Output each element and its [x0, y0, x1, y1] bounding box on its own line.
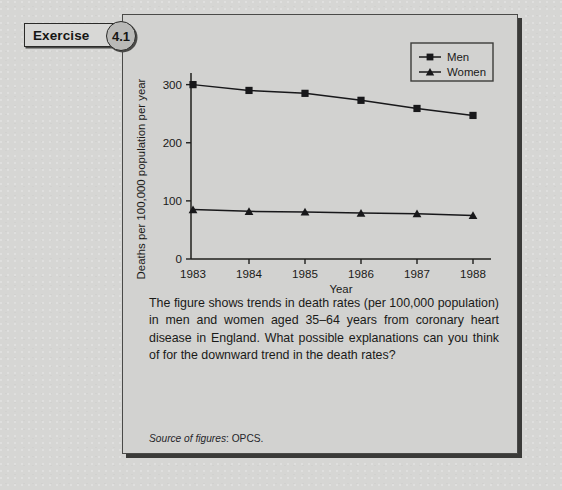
legend-label-men: Men: [447, 51, 469, 63]
series-line: [193, 85, 473, 116]
y-tick-label: 200: [163, 136, 182, 149]
series-women: [189, 205, 478, 219]
data-point: [427, 54, 434, 61]
data-point: [413, 105, 420, 112]
source-value: OPCS.: [232, 433, 264, 444]
data-point: [301, 90, 308, 97]
x-tick-label: 1988: [460, 267, 486, 280]
series-men: [189, 81, 476, 119]
source-line: Source of figures: OPCS.: [149, 433, 263, 444]
chart-container: Deaths per 100,000 population per year 0…: [123, 21, 519, 299]
chart-legend: MenWomen: [411, 43, 493, 81]
death-rates-line-chart: Deaths per 100,000 population per year 0…: [123, 21, 519, 299]
data-point: [245, 87, 252, 94]
series-line: [193, 210, 473, 216]
x-axis-ticks: 198319841985198619871988: [180, 259, 486, 280]
x-tick-label: 1986: [348, 267, 374, 280]
source-label: Source of figures: [149, 433, 226, 444]
y-axis-ticks: 0100200300: [163, 78, 191, 265]
exercise-panel: Deaths per 100,000 population per year 0…: [122, 14, 518, 454]
x-tick-label: 1983: [180, 267, 206, 280]
x-tick-label: 1984: [236, 267, 262, 280]
exercise-caption: The figure shows trends in death rates (…: [149, 295, 499, 365]
legend-label-women: Women: [447, 66, 486, 78]
y-axis-title: Deaths per 100,000 population per year: [135, 78, 147, 279]
y-tick-label: 300: [163, 78, 182, 91]
exercise-badge: Exercise 4.1: [24, 22, 120, 48]
data-point: [469, 112, 476, 119]
x-tick-label: 1985: [292, 267, 318, 280]
exercise-number-circle: 4.1: [106, 21, 136, 51]
data-point: [357, 97, 364, 104]
x-tick-label: 1987: [404, 267, 430, 280]
data-point: [189, 81, 196, 88]
y-tick-label: 100: [163, 194, 182, 207]
exercise-badge-label: Exercise: [33, 28, 89, 43]
y-tick-label: 0: [176, 252, 182, 265]
x-axis-title: Year: [329, 283, 352, 295]
next-page-text-fragment: [190, 478, 540, 488]
